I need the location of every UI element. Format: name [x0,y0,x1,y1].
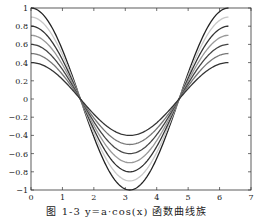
y-tick-label: −1 [16,186,28,195]
y-tick-label: −0.4 [9,131,28,140]
y-tick-label: 0.2 [15,77,28,86]
y-tick-label: −0.8 [9,168,28,177]
x-tick-label: 4 [154,193,159,202]
x-tick-label: 3 [123,193,128,202]
y-tick-label: 0 [23,95,28,104]
y-tick-label: 0.8 [15,22,28,31]
x-tick-label: 6 [217,193,222,202]
curves-group [31,8,228,190]
y-tick-label: −0.2 [9,113,28,122]
x-tick-label: 0 [28,193,33,202]
curve-a=0.9 [31,17,228,181]
x-tick-label: 1 [60,193,65,202]
x-tick-label: 7 [248,193,253,202]
figure-caption: 图 1-3 y=a·cos(x) 函数曲线族 [0,203,254,218]
y-tick-label: 1 [23,4,28,13]
curve-a=0.4 [31,63,228,136]
x-tick-label: 2 [91,193,96,202]
y-tick-label: 0.6 [15,40,28,49]
y-tick-label: 0.4 [15,59,28,68]
x-tick-label: 5 [186,193,191,202]
y-tick-label: −0.6 [9,150,28,159]
curve-a=0.8 [31,26,228,172]
curve-a=0.7 [31,35,228,162]
cosine-family-chart: 01234567 10.80.60.40.20−0.2−0.4−0.6−0.8−… [0,0,254,218]
plot-frame [31,8,251,190]
